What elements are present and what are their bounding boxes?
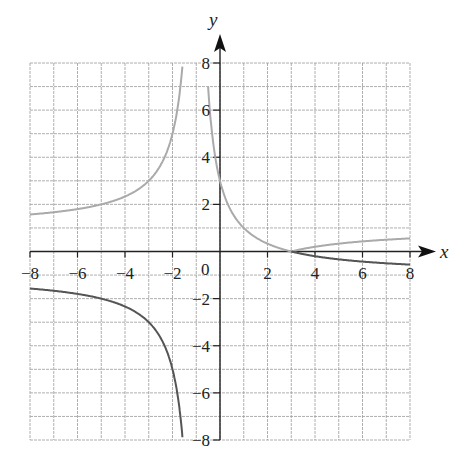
y-tick-label: −6 xyxy=(192,384,210,403)
y-tick-label: −8 xyxy=(192,431,210,450)
x-tick-label: −8 xyxy=(21,264,39,283)
y-tick-label: 4 xyxy=(202,148,211,167)
x-tick-label: −2 xyxy=(163,264,181,283)
origin-label: 0 xyxy=(201,260,210,279)
x-tick-label: 6 xyxy=(358,264,367,283)
x-tick-label: 8 xyxy=(406,264,415,283)
x-tick-label: −6 xyxy=(68,264,86,283)
y-tick-label: 6 xyxy=(202,101,211,120)
y-tick-label: −4 xyxy=(192,337,211,356)
y-tick-label: 2 xyxy=(202,195,211,214)
x-axis-label: x xyxy=(439,241,449,262)
light-curve-left-branch xyxy=(30,67,182,215)
y-tick-label: 8 xyxy=(202,54,211,73)
light-curve-right-branch xyxy=(208,87,410,252)
function-graph: −8−6−4−224688642−2−4−6−8 x y 0 xyxy=(0,0,458,456)
y-tick-label: −2 xyxy=(192,290,210,309)
dark-curve-left-branch xyxy=(30,289,182,438)
dark-curve-right-branch xyxy=(291,252,410,265)
x-tick-label: 4 xyxy=(311,264,320,283)
axes xyxy=(30,34,436,440)
x-tick-label: −4 xyxy=(116,264,135,283)
y-axis-label: y xyxy=(207,9,218,30)
x-tick-label: 2 xyxy=(263,264,272,283)
